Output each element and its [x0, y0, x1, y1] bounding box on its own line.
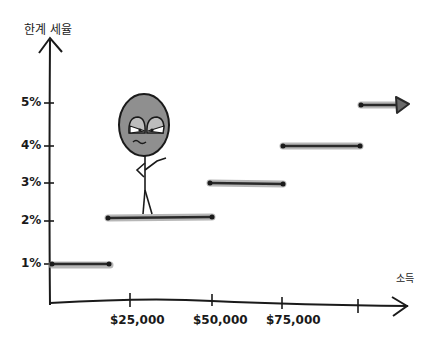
x-tick-label-25000: $25,000	[110, 313, 165, 327]
y-tick-label-2: 2%	[21, 213, 41, 227]
y-axis-title: 한계 세율	[24, 20, 72, 37]
y-tick-label-4: 4%	[21, 138, 41, 152]
x-axis	[50, 299, 408, 306]
step-series	[50, 97, 410, 267]
y-tick-label-5: 5%	[21, 95, 41, 109]
x-tick-label-50000: $50,000	[193, 313, 248, 327]
y-tick-label-3: 3%	[21, 175, 41, 189]
continue-arrow-icon	[396, 97, 409, 113]
chart-canvas	[0, 0, 434, 350]
x-axis-title: 소득	[396, 270, 414, 285]
stick-figure-icon	[119, 94, 169, 214]
x-tick-label-75000: $75,000	[266, 313, 321, 327]
y-tick-label-1: 1%	[21, 256, 41, 270]
